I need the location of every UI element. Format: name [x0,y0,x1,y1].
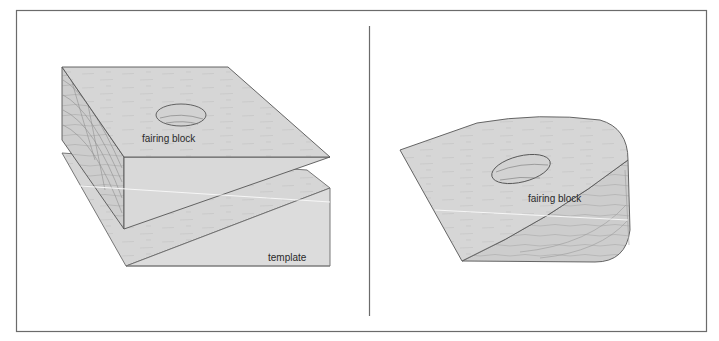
diagram-canvas: fairing block template fairing block [0,0,719,341]
fairing-block-label-right: fairing block [528,193,582,204]
fairing-block-label-left: fairing block [142,133,196,144]
left-panel: fairing block template [62,67,330,266]
right-panel: fairing block [400,117,630,262]
template-label: template [268,252,307,263]
